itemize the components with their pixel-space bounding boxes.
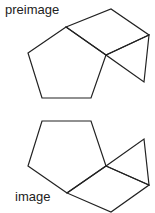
preimage-pentagon — [28, 27, 106, 98]
image-pentagon — [28, 121, 106, 193]
transformation-diagram — [0, 0, 155, 213]
image-triangle — [106, 139, 149, 185]
preimage-figure — [28, 9, 149, 98]
preimage-triangle — [106, 35, 149, 82]
image-parallelogram — [67, 166, 149, 212]
image-figure — [28, 121, 149, 212]
preimage-parallelogram — [66, 9, 149, 55]
